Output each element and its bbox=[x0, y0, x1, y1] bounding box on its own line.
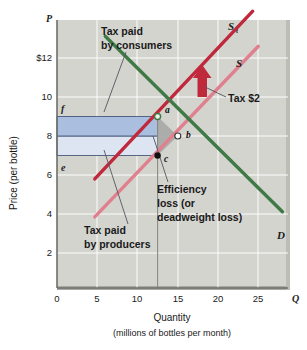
annotation-line: loss (or bbox=[157, 197, 195, 209]
x-axis-symbol: Q bbox=[292, 293, 299, 304]
annotation-line: Tax paid bbox=[101, 25, 143, 37]
point-c-marker bbox=[154, 152, 160, 158]
x-tick-label: 5 bbox=[94, 293, 99, 304]
x-tick-label: 10 bbox=[132, 293, 143, 304]
x-tick-label: 15 bbox=[173, 293, 184, 304]
annotation-line: by producers bbox=[84, 238, 151, 250]
y-tick-label: $12 bbox=[36, 52, 52, 63]
curve-label-st-text: S bbox=[228, 20, 234, 32]
x-tick-label: 0 bbox=[54, 293, 59, 304]
point-label-a: a bbox=[165, 105, 170, 115]
annotation-line: Efficiency bbox=[157, 183, 207, 195]
plot-panel-shadow-right bbox=[286, 20, 290, 290]
x-axis-subtitle: (millions of bottles per month) bbox=[113, 328, 231, 338]
x-tick-label: 20 bbox=[213, 293, 224, 304]
y-tick-label: 8 bbox=[47, 130, 52, 141]
region-tax-paid-by-producers bbox=[57, 136, 158, 156]
annotation-tax-amount: Tax $2 bbox=[228, 92, 260, 104]
x-tick-label: 25 bbox=[253, 293, 264, 304]
point-label-b: b bbox=[186, 130, 191, 140]
point-b-marker bbox=[175, 133, 181, 139]
y-tick-label: 2 bbox=[47, 247, 52, 258]
y-tick-label: 10 bbox=[41, 91, 52, 102]
annotation-line: by consumers bbox=[101, 39, 172, 51]
point-a-marker bbox=[155, 114, 161, 120]
y-tick-label: 4 bbox=[47, 208, 52, 219]
y-axis-title: Price (per bottle) bbox=[8, 136, 19, 210]
annotation-line: deadweight loss) bbox=[157, 211, 242, 223]
curve-label-supply: S bbox=[236, 57, 242, 69]
annotation-line: Tax paid bbox=[84, 224, 126, 236]
price-letter-e: e bbox=[61, 162, 66, 173]
y-axis-symbol: P bbox=[46, 13, 53, 24]
curve-label-demand: D bbox=[276, 229, 285, 241]
x-axis-title: Quantity bbox=[153, 312, 190, 323]
tax-incidence-chart: a b c f e S t S D Tax paid by consumers … bbox=[0, 0, 307, 350]
y-tick-label: 6 bbox=[47, 169, 52, 180]
